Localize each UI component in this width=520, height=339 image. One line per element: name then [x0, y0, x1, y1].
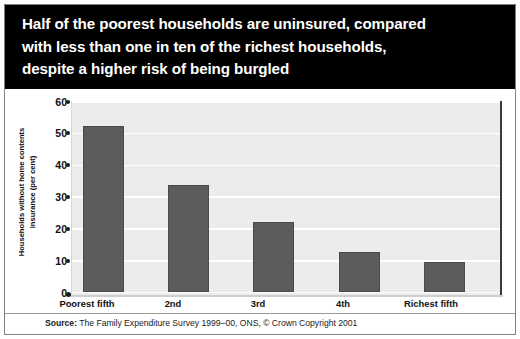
x-tick-label-richest-fifth: Richest fifth [387, 298, 475, 309]
bar-poorest-fifth [83, 126, 124, 291]
source-note: Source: The Family Expenditure Survey 19… [45, 318, 357, 328]
bar-2nd [168, 185, 209, 291]
x-tick-label-2nd: 2nd [133, 298, 213, 309]
title-line-3: despite a higher risk of being burgled [22, 58, 502, 81]
y-axis-title-line-1: Households without home contents [16, 92, 27, 292]
gridline-0 [72, 292, 500, 294]
chart-figure: Half of the poorest households are unins… [4, 4, 516, 335]
y-tick-label-60: 60 [27, 96, 67, 108]
source-value: The Family Expenditure Survey 1999–00, O… [77, 318, 357, 328]
x-axis-line [71, 295, 503, 297]
gridline-50 [72, 133, 500, 135]
y-tick-label-50: 50 [27, 127, 67, 139]
bar-richest-fifth [424, 262, 465, 292]
y-tick-label-20: 20 [27, 223, 67, 235]
gridline-30 [72, 196, 500, 198]
x-tick-label-poorest-fifth: Poorest fifth [47, 298, 127, 309]
source-label: Source: [45, 318, 77, 328]
x-axis-origin-dot [66, 292, 71, 297]
gridline-40 [72, 165, 500, 167]
bar-3rd [253, 222, 294, 292]
x-tick-label-4th: 4th [303, 298, 383, 309]
page-title: Half of the poorest households are unins… [22, 13, 502, 81]
bar-4th [339, 252, 380, 291]
source-band: Source: The Family Expenditure Survey 19… [5, 313, 515, 334]
title-band: Half of the poorest households are unins… [5, 5, 515, 89]
y-tick-label-30: 30 [27, 191, 67, 203]
chart-area: Households without home contents insuran… [5, 89, 515, 334]
x-tick-label-3rd: 3rd [218, 298, 298, 309]
gridline-60 [72, 101, 500, 103]
y-tick-label-10: 10 [27, 255, 67, 267]
title-line-2: with less than one in ten of the richest… [22, 36, 502, 59]
y-tick-label-40: 40 [27, 159, 67, 171]
plot-area [72, 101, 502, 295]
title-line-1: Half of the poorest households are unins… [22, 13, 502, 36]
